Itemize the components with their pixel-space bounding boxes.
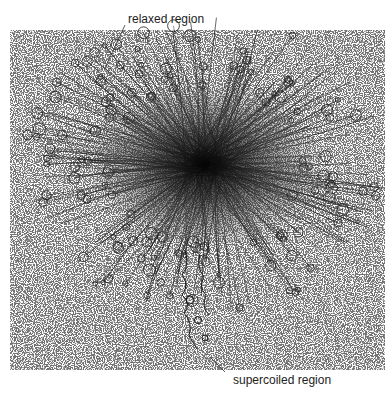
nucleoid-micrograph xyxy=(0,0,392,396)
supercoiled-region-label: supercoiled region xyxy=(233,373,331,387)
dense-core xyxy=(85,80,325,250)
relaxed-region-label: relaxed region xyxy=(128,12,204,26)
